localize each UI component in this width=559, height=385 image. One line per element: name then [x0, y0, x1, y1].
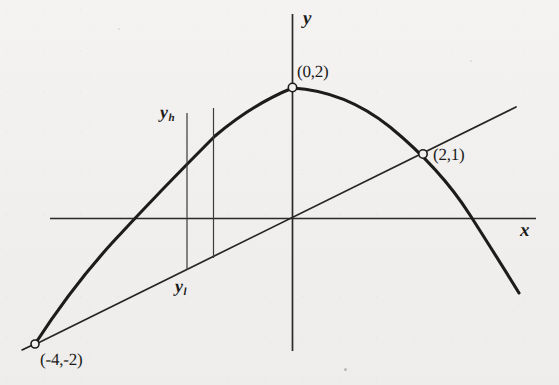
secant-line: [34, 107, 516, 345]
parabola-left-branch: [35, 88, 293, 344]
upper-boundary-subscript: h: [169, 112, 175, 124]
figure-canvas: y x (0,2) (2,1) (-4,-2) yh yl: [0, 0, 559, 385]
parabola-right-branch: [293, 88, 520, 293]
lower-boundary-symbol: y: [175, 276, 183, 296]
plot-svg: [0, 0, 559, 385]
point-marker-vertex: [288, 83, 296, 91]
lower-boundary-subscript: l: [184, 286, 187, 298]
y-axis-label: y: [303, 9, 311, 28]
lower-boundary-label: yl: [175, 277, 186, 295]
point-marker-lower: [31, 340, 39, 348]
upper-boundary-label: yh: [160, 103, 174, 121]
vertex-point-label: (0,2): [297, 63, 329, 80]
lower-point-label: (-4,-2): [40, 351, 83, 368]
point-marker-intersection: [419, 150, 427, 158]
lower-point-tail: [22, 346, 32, 351]
x-axis-label: x: [520, 221, 530, 240]
upper-boundary-symbol: y: [160, 102, 168, 122]
intersection-point-label: (2,1): [433, 146, 465, 163]
